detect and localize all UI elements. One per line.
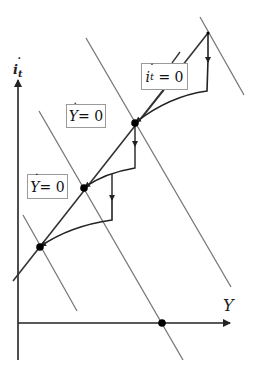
it-zero-rhs: = 0 xyxy=(158,69,183,85)
y-zero-upper-symbol: Y xyxy=(69,108,78,124)
y-zero-label-lower: Y= 0 xyxy=(27,174,68,199)
y-axis-label: it xyxy=(13,62,23,79)
it-zero-symbol: i xyxy=(145,69,149,85)
y-zero-lower-symbol: Y xyxy=(30,179,39,195)
leader-it-zero xyxy=(172,52,180,63)
y-zero-upper-rhs: = 0 xyxy=(78,108,103,124)
it-zero-label: it = 0 xyxy=(141,63,188,90)
isoline-lower xyxy=(23,215,77,311)
adjustment-path-low-2 xyxy=(41,198,112,246)
point-top xyxy=(207,32,210,35)
point-x-axis xyxy=(158,319,166,327)
y-zero-lower-rhs: = 0 xyxy=(40,179,65,195)
x-axis-label: Y xyxy=(223,296,234,315)
point-middle xyxy=(80,184,88,192)
leader-it-zero-lower xyxy=(144,90,164,115)
x-axis-symbol: Y xyxy=(223,296,234,315)
y-axis-symbol: i xyxy=(13,62,18,77)
y-zero-label-upper: Y= 0 xyxy=(66,104,106,128)
point-upper xyxy=(131,119,139,127)
point-lower xyxy=(36,243,44,251)
